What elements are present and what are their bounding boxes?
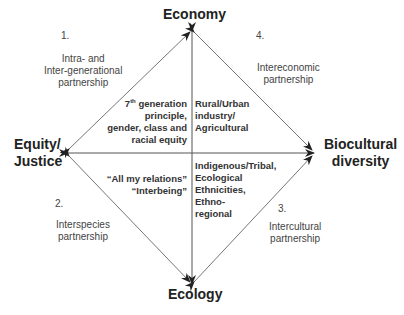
partnership-1-line1: Intra- and	[44, 53, 122, 65]
quadrant-lower-left: “All my relations” “Interbeing”	[107, 173, 187, 197]
partnership-1-line2: Inter-generational	[44, 65, 122, 77]
quadrant-lower-right: Indigenous/Tribal, Ecological Ethnicitie…	[195, 160, 276, 219]
partnership-1-label: Intra- and Inter-generational partnershi…	[44, 53, 122, 89]
quadrant-lr-line3: Ethnicities,	[195, 184, 276, 196]
vertex-ecology: Ecology	[168, 286, 222, 303]
partnership-3-line2: partnership	[269, 233, 321, 245]
quadrant-lr-line4: Ethno-	[195, 196, 276, 208]
partnership-2-line1: Interspecies	[56, 219, 110, 231]
quadrant-lr-line5: regional	[195, 208, 276, 220]
partnership-2-number: 2.	[55, 198, 63, 210]
partnership-4-label: Intereconomic partnership	[257, 62, 320, 86]
vertex-economy: Economy	[163, 6, 226, 23]
vertex-equity-justice: Equity/ Justice	[14, 136, 62, 170]
partnership-4-number: 4.	[256, 30, 264, 42]
partnership-1-line3: partnership	[44, 77, 122, 89]
quadrant-ur-line3: Agricultural	[195, 122, 249, 134]
partnership-4-line2: partnership	[257, 74, 320, 86]
partnership-3-label: Intercultural partnership	[269, 221, 321, 245]
quadrant-ul-line1: 7th generation	[107, 98, 187, 110]
partnership-3-number: 3.	[278, 203, 286, 215]
vertex-biocultural-line1: Biocultural	[324, 136, 397, 153]
vertex-equity-line2: Justice	[14, 153, 62, 170]
vertex-biocultural-line2: diversity	[324, 153, 397, 170]
quadrant-ul-line3: gender, class and	[107, 122, 187, 134]
quadrant-upper-right: Rural/Urban industry/ Agricultural	[195, 98, 249, 134]
partnership-2-line2: partnership	[56, 231, 110, 243]
quadrant-upper-left: 7th generation principle, gender, class …	[107, 98, 187, 146]
partnership-4-line1: Intereconomic	[257, 62, 320, 74]
quadrant-ur-line1: Rural/Urban	[195, 98, 249, 110]
quadrant-ll-line2: “Interbeing”	[107, 185, 187, 197]
partnership-3-line1: Intercultural	[269, 221, 321, 233]
quadrant-ll-line1: “All my relations”	[107, 173, 187, 185]
vertex-equity-line1: Equity/	[14, 136, 62, 153]
partnership-2-label: Interspecies partnership	[56, 219, 110, 243]
quadrant-ul-line2: principle,	[107, 110, 187, 122]
vertex-biocultural-diversity: Biocultural diversity	[324, 136, 397, 170]
quadrant-lr-line1: Indigenous/Tribal,	[195, 160, 276, 172]
quadrant-ul-line4: racial equity	[107, 134, 187, 146]
quadrant-ur-line2: industry/	[195, 110, 249, 122]
partnership-1-number: 1.	[61, 30, 69, 42]
quadrant-lr-line2: Ecological	[195, 172, 276, 184]
